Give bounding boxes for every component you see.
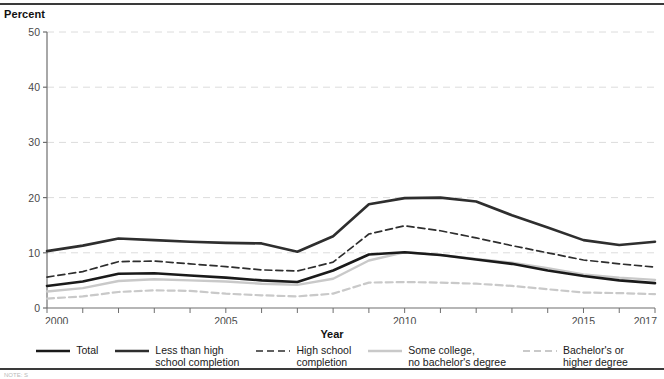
legend-item-label: Total: [76, 344, 98, 356]
y-tick-label: 20: [28, 192, 40, 204]
legend-item-label: Bachelor's or higher degree: [563, 344, 628, 368]
chart-legend: TotalLess than high school completionHig…: [0, 344, 664, 370]
legend-item-label: High school completion: [296, 344, 351, 368]
chart-figure: Percent 0102030405020002005201020152017 …: [0, 0, 664, 379]
legend-item: Total: [36, 344, 98, 357]
legend-item-label: Less than high school completion: [155, 344, 239, 368]
bottom-divider: [0, 368, 664, 370]
legend-swatch-5: [523, 345, 557, 357]
y-axis-title: Percent: [4, 8, 45, 20]
y-tick-label: 40: [28, 81, 40, 93]
x-tick-label: 2010: [393, 315, 417, 324]
y-tick-label: 50: [28, 26, 40, 38]
x-tick-label: 2000: [45, 315, 69, 324]
legend-item: Less than high school completion: [115, 344, 239, 368]
legend-swatch-4: [368, 345, 402, 357]
legend-item: Bachelor's or higher degree: [523, 344, 628, 368]
legend-item-label: Some college, no bachelor's degree: [408, 344, 506, 368]
y-tick-label: 0: [34, 302, 40, 314]
legend-item: High school completion: [256, 344, 351, 368]
y-tick-label: 30: [28, 136, 40, 148]
x-axis-title: Year: [0, 328, 664, 340]
legend-swatch-1: [36, 345, 70, 357]
figure-footnote: NOTE: S: [4, 372, 28, 378]
top-divider: [0, 3, 664, 5]
x-tick-label: 2017: [634, 315, 658, 324]
series-line: [47, 282, 655, 299]
x-tick-label: 2005: [214, 315, 238, 324]
legend-item: Some college, no bachelor's degree: [368, 344, 506, 368]
plot-area: 0102030405020002005201020152017: [0, 24, 664, 324]
legend-swatch-3: [256, 345, 290, 357]
x-tick-label: 2015: [572, 315, 596, 324]
series-line: [47, 198, 655, 252]
y-tick-label: 10: [28, 247, 40, 259]
line-chart-svg: 0102030405020002005201020152017: [0, 24, 664, 324]
legend-swatch-2: [115, 345, 149, 357]
